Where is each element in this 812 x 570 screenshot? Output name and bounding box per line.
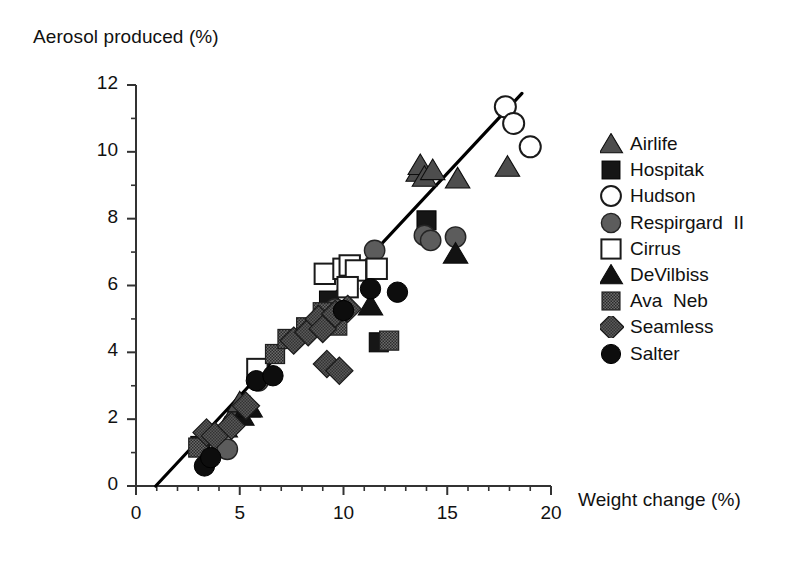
legend-item-airlife[interactable]: Airlife — [600, 131, 806, 157]
legend-glyph — [600, 134, 623, 153]
x-tick-label: 10 — [324, 502, 364, 524]
legend-marker-square-filled-icon — [600, 159, 626, 181]
legend-label: Airlife — [630, 133, 678, 155]
legend-marker-circle-filled-gray-icon — [600, 212, 626, 234]
y-tick-label: 12 — [84, 72, 118, 94]
marker-square-hatch — [380, 331, 399, 350]
legend-glyph — [602, 161, 620, 179]
y-tick-label: 8 — [84, 206, 118, 228]
marker-circle-black — [201, 447, 221, 467]
y-tick-label: 10 — [84, 139, 118, 161]
legend-label: Ava Neb — [630, 290, 708, 312]
data-point — [315, 264, 335, 284]
legend-glyph — [601, 239, 620, 258]
marker-square-filled — [602, 161, 620, 179]
data-point — [443, 243, 467, 264]
y-tick-label: 2 — [84, 406, 118, 428]
marker-square-open — [601, 239, 620, 258]
legend-item-salter[interactable]: Salter — [600, 341, 806, 367]
legend-label: DeVilbiss — [630, 264, 709, 286]
legend-label: Seamless — [630, 316, 713, 338]
marker-triangle — [600, 134, 623, 153]
legend-item-hudson[interactable]: Hudson — [600, 183, 806, 209]
legend-item-ava-neb[interactable]: Ava Neb — [600, 288, 806, 314]
marker-diamond — [600, 316, 624, 338]
marker-circle-gray — [601, 213, 620, 232]
y-tick-label: 0 — [84, 473, 118, 495]
data-point — [503, 113, 524, 134]
marker-triangle — [443, 243, 467, 264]
marker-circle-open — [601, 187, 621, 207]
legend-marker-triangle-up-icon — [600, 133, 626, 155]
marker-square-open — [315, 264, 335, 284]
marker-circle-gray — [364, 240, 384, 260]
data-point — [364, 240, 384, 260]
data-point — [367, 259, 387, 279]
data-point — [333, 300, 353, 320]
y-tick-label: 6 — [84, 273, 118, 295]
x-tick-label: 5 — [220, 502, 260, 524]
marker-square-open — [367, 259, 387, 279]
legend-marker-diamond-icon — [600, 316, 626, 338]
marker-circle-open — [503, 113, 524, 134]
legend-marker-square-open-icon — [600, 238, 626, 260]
legend-label: Salter — [630, 343, 680, 365]
legend-label: Hospitak — [630, 159, 704, 181]
legend-item-seamless[interactable]: Seamless — [600, 314, 806, 340]
legend-label: Respirgard II — [630, 212, 744, 234]
x-tick-label: 0 — [116, 502, 156, 524]
marker-circle-black — [387, 282, 407, 302]
legend-marker-square-hatch-icon — [600, 290, 626, 312]
legend-glyph — [602, 292, 620, 310]
marker-circle-black — [333, 300, 353, 320]
y-tick-label: 4 — [84, 339, 118, 361]
legend-item-hospitak[interactable]: Hospitak — [600, 157, 806, 183]
legend-marker-circle-open-icon — [600, 185, 626, 207]
marker-circle-black — [360, 279, 380, 299]
data-point — [360, 279, 380, 299]
data-point — [387, 282, 407, 302]
marker-triangle — [495, 156, 519, 177]
marker-triangle — [600, 265, 623, 284]
legend-marker-circle-filled-black-icon — [600, 343, 626, 365]
legend-item-respirgard-ii[interactable]: Respirgard II — [600, 210, 806, 236]
legend-label: Cirrus — [630, 238, 681, 260]
data-point — [495, 156, 519, 177]
marker-circle-black — [263, 366, 283, 386]
marker-square-hatch — [602, 292, 620, 310]
legend-glyph — [600, 316, 624, 338]
marker-circle-gray — [420, 230, 440, 250]
data-point — [380, 331, 399, 350]
series-hudson — [495, 96, 541, 157]
data-points-layer — [189, 96, 541, 476]
legend-glyph — [601, 187, 621, 207]
data-point — [420, 230, 440, 250]
legend-marker-triangle-up-dark-icon — [600, 264, 626, 286]
marker-circle-open — [520, 136, 541, 157]
data-point — [201, 447, 221, 467]
x-tick-label: 20 — [531, 502, 571, 524]
legend-glyph — [601, 344, 620, 363]
x-tick-label: 15 — [427, 502, 467, 524]
marker-circle-black — [601, 344, 620, 363]
legend-item-cirrus[interactable]: Cirrus — [600, 236, 806, 262]
data-point — [263, 366, 283, 386]
legend-glyph — [601, 213, 620, 232]
chart-legend: AirlifeHospitakHudsonRespirgard IICirrus… — [600, 131, 806, 367]
data-point — [337, 277, 357, 297]
legend-label: Hudson — [630, 185, 696, 207]
chart-figure: Aerosol produced (%) Weight change (%) 0… — [0, 0, 812, 570]
marker-square-open — [337, 277, 357, 297]
data-point — [520, 136, 541, 157]
legend-item-devilbiss[interactable]: DeVilbiss — [600, 262, 806, 288]
legend-glyph — [600, 265, 623, 284]
